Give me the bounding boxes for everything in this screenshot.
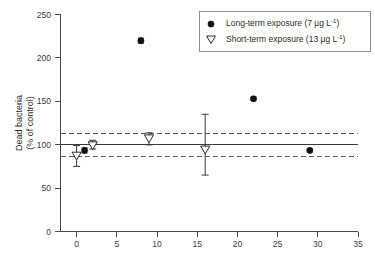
y-ticklabel-100: 100 xyxy=(37,140,51,150)
legend-label-short-term-text: Short-term exposure (13 µg L xyxy=(226,34,337,44)
legend-label-short-term-tail: ) xyxy=(343,34,346,44)
y-ticklabel-0: 0 xyxy=(46,227,51,237)
legend-label-long-term: Long-term exposure (7 µg L-1) xyxy=(226,18,339,29)
legend-entry-short-term[interactable]: Short-term exposure (13 µg L-1) xyxy=(207,34,346,45)
x-ticklabel-35: 35 xyxy=(353,239,363,249)
marker-filled-circle xyxy=(307,147,313,153)
chart-figure: 250 200 150 100 50 0 0 5 10 15 20 25 30 … xyxy=(0,0,375,261)
data-point-long-term-29 xyxy=(307,147,313,153)
marker-open-down-triangle xyxy=(201,146,210,154)
y-axis-title-line2: (% of control) xyxy=(25,96,35,150)
x-ticklabel-20: 20 xyxy=(233,239,243,249)
scatter-plot-svg: 250 200 150 100 50 0 0 5 10 15 20 25 30 … xyxy=(0,0,375,261)
marker-filled-circle xyxy=(82,147,88,153)
series-long-term-exposure xyxy=(82,38,313,154)
marker-open-down-triangle xyxy=(88,142,97,150)
data-point-short-term-2 xyxy=(88,140,97,149)
data-point-long-term-8 xyxy=(138,38,144,44)
y-ticklabel-150: 150 xyxy=(37,96,51,106)
x-ticklabel-15: 15 xyxy=(192,239,202,249)
y-axis-ticks: 250 200 150 100 50 0 xyxy=(37,10,61,237)
data-point-long-term-22 xyxy=(250,96,256,102)
y-axis-title: Dead bacteria (% of control) xyxy=(14,95,35,151)
x-ticklabel-25: 25 xyxy=(273,239,283,249)
marker-open-down-triangle xyxy=(144,135,153,143)
x-ticklabel-10: 10 xyxy=(152,239,162,249)
data-point-long-term-1 xyxy=(82,147,88,153)
legend-label-long-term-tail: ) xyxy=(336,18,339,28)
legend-entry-long-term[interactable]: Long-term exposure (7 µg L-1) xyxy=(208,18,340,29)
y-ticklabel-200: 200 xyxy=(37,53,51,63)
y-ticklabel-50: 50 xyxy=(42,183,52,193)
data-point-short-term-9 xyxy=(144,133,153,145)
marker-filled-circle xyxy=(250,96,256,102)
x-ticklabel-0: 0 xyxy=(74,239,79,249)
x-ticklabel-30: 30 xyxy=(313,239,323,249)
marker-filled-circle xyxy=(138,38,144,44)
legend-label-long-term-text: Long-term exposure (7 µg L xyxy=(226,18,331,28)
legend-marker-filled-circle xyxy=(208,21,214,27)
chart-legend: Long-term exposure (7 µg L-1) Short-term… xyxy=(200,12,371,52)
legend-label-short-term: Short-term exposure (13 µg L-1) xyxy=(226,34,346,45)
x-axis-ticks: 0 5 10 15 20 25 30 35 xyxy=(74,232,363,250)
x-ticklabel-5: 5 xyxy=(114,239,119,249)
y-axis-title-line1: Dead bacteria xyxy=(14,95,24,151)
reference-lines xyxy=(61,133,359,156)
y-ticklabel-250: 250 xyxy=(37,10,51,20)
